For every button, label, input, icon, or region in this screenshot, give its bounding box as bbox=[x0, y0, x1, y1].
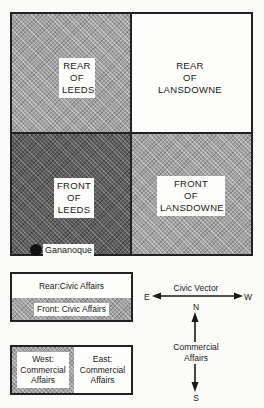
legend-east-commercial: East: Commercial Affairs bbox=[74, 347, 131, 393]
legend-east-commercial-label: East: Commercial Affairs bbox=[80, 354, 125, 386]
compass-west-label: W bbox=[244, 292, 252, 302]
commercial-affairs-legend: West: Commercial Affairs East: Commercia… bbox=[10, 345, 133, 395]
label-line: OF bbox=[160, 190, 222, 202]
legend-front-civic: Front: Civic Affairs bbox=[12, 298, 131, 320]
label-line: OF bbox=[62, 72, 92, 84]
north-arrow-icon bbox=[189, 312, 201, 342]
label-line: LANSDOWNE bbox=[160, 202, 222, 214]
label-line: Commercial bbox=[20, 365, 65, 376]
label-line: LEEDS bbox=[62, 84, 92, 96]
label-line: Commercial bbox=[80, 365, 125, 376]
label-line: LEEDS bbox=[57, 204, 91, 216]
cell-front-of-leeds: FRONT OF LEEDS Gananoque bbox=[12, 134, 132, 254]
civic-affairs-legend: Rear:Civic Affairs Front: Civic Affairs bbox=[10, 272, 133, 322]
label-front-of-lansdowne: FRONT OF LANSDOWNE bbox=[157, 176, 225, 216]
label-rear-of-leeds: REAR OF LEEDS bbox=[59, 58, 95, 98]
label-line: OF bbox=[157, 72, 223, 84]
label-line: REAR bbox=[157, 60, 223, 72]
label-front-of-leeds: FRONT OF LEEDS bbox=[54, 178, 94, 218]
label-line: West: bbox=[20, 354, 65, 365]
compass-east-label: E bbox=[144, 292, 150, 302]
compass-north-label: N bbox=[193, 302, 199, 312]
township-grid: REAR OF LEEDS REAR OF LANSDOWNE FRONT OF… bbox=[10, 12, 253, 256]
label-line: Affairs bbox=[173, 353, 218, 364]
cell-front-of-lansdowne: FRONT OF LANSDOWNE bbox=[132, 134, 251, 254]
label-line: East: bbox=[80, 354, 125, 365]
commercial-affairs-vector-label: Commercial Affairs bbox=[173, 342, 218, 363]
label-rear-of-lansdowne: REAR OF LANSDOWNE bbox=[154, 58, 226, 98]
gananoque-label: Gananoque bbox=[43, 244, 94, 256]
gananoque-marker-icon bbox=[30, 244, 42, 256]
legend-west-commercial: West: Commercial Affairs bbox=[12, 347, 76, 393]
label-line: Commercial bbox=[173, 342, 218, 353]
label-line: LANSDOWNE bbox=[157, 84, 223, 96]
legend-west-commercial-label: West: Commercial Affairs bbox=[17, 352, 68, 388]
label-line: OF bbox=[57, 192, 91, 204]
label-line: REAR bbox=[62, 60, 92, 72]
legend-front-civic-label: Front: Civic Affairs bbox=[34, 303, 109, 316]
label-line: FRONT bbox=[160, 178, 222, 190]
label-line: Affairs bbox=[20, 375, 65, 386]
label-line: Affairs bbox=[80, 375, 125, 386]
cell-rear-of-leeds: REAR OF LEEDS bbox=[12, 14, 132, 134]
compass-south-label: S bbox=[193, 393, 199, 403]
label-line: FRONT bbox=[57, 180, 91, 192]
legend-rear-civic: Rear:Civic Affairs bbox=[12, 274, 131, 300]
cell-rear-of-lansdowne: REAR OF LANSDOWNE bbox=[132, 14, 251, 134]
south-arrow-icon bbox=[189, 364, 201, 392]
civic-vector-arrow-icon bbox=[150, 290, 245, 302]
